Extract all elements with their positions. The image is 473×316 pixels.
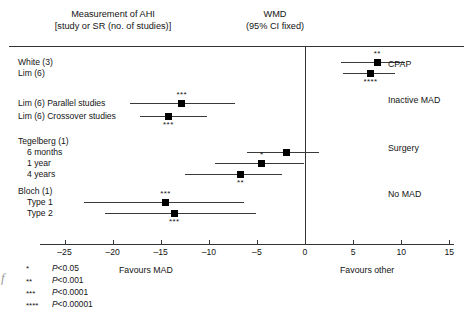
group-label: Surgery xyxy=(388,144,419,153)
legend-stars: *** xyxy=(26,289,35,298)
axis-tick-label: 10 xyxy=(386,248,416,257)
study-label: Lim (6) Crossover studies xyxy=(18,112,116,121)
header-left-column: Measurement of AHI [study or SR (no. of … xyxy=(18,9,208,32)
forest-plot: Measurement of AHI [study or SR (no. of … xyxy=(0,0,473,316)
significance-stars: *** xyxy=(159,218,189,226)
header-left-line2: [study or SR (no. of studies)] xyxy=(18,21,208,33)
study-label: Tegelberg (1) xyxy=(18,137,69,146)
axis-tick xyxy=(161,240,162,244)
group-label: Inactive MAD xyxy=(388,96,440,105)
significance-stars: ** xyxy=(226,179,256,187)
axis-tick xyxy=(209,240,210,244)
axis-tick xyxy=(353,240,354,244)
point-estimate-marker xyxy=(162,199,169,206)
axis-tick-label: –20 xyxy=(98,248,128,257)
point-estimate-marker xyxy=(367,70,374,77)
significance-stars: *** xyxy=(167,91,197,99)
page-edge-artifact: f xyxy=(1,271,5,284)
null-reference-line xyxy=(305,47,306,244)
point-estimate-marker xyxy=(258,160,265,167)
confidence-interval-line xyxy=(140,116,207,117)
axis-tick-label: –25 xyxy=(50,248,80,257)
point-estimate-marker xyxy=(165,113,172,120)
axis-tick-label: 5 xyxy=(338,248,368,257)
axis-tick-label: 15 xyxy=(434,248,464,257)
point-estimate-marker xyxy=(283,149,290,156)
favours-left-label: Favours MAD xyxy=(119,266,173,275)
legend-stars: ** xyxy=(26,277,32,286)
confidence-interval-line xyxy=(105,213,256,214)
study-label: Lim (6) xyxy=(18,69,45,78)
header-center-column: WMD (95% CI fixed) xyxy=(215,9,335,32)
study-label: Type 2 xyxy=(27,209,53,218)
point-estimate-marker xyxy=(237,171,244,178)
axis-tick-label: 0 xyxy=(290,248,320,257)
axis-tick xyxy=(305,240,306,244)
axis-tick-label: –10 xyxy=(194,248,224,257)
axis-baseline xyxy=(40,244,454,245)
favours-right-label: Favours other xyxy=(340,266,394,275)
significance-stars: ** xyxy=(362,50,392,58)
axis-tick xyxy=(65,240,66,244)
axis-tick xyxy=(401,240,402,244)
study-label: White (3) xyxy=(18,58,53,67)
legend-text: P<0.00001 xyxy=(52,300,93,309)
axis-tick xyxy=(449,240,450,244)
header-left-line1: Measurement of AHI xyxy=(18,9,208,21)
legend-text: P<0.001 xyxy=(52,276,83,285)
study-label: Type 1 xyxy=(27,198,53,207)
legend-stars: **** xyxy=(26,301,38,310)
axis-tick xyxy=(113,240,114,244)
confidence-interval-line xyxy=(185,174,282,175)
header-center-line1: WMD xyxy=(215,9,335,21)
point-estimate-marker xyxy=(178,100,185,107)
group-label: No MAD xyxy=(388,190,421,199)
legend-stars: * xyxy=(26,264,29,273)
significance-stars: *** xyxy=(151,190,181,198)
header-center-line2: (95% CI fixed) xyxy=(215,21,335,33)
significance-stars: *** xyxy=(153,121,183,129)
point-estimate-marker xyxy=(171,210,178,217)
study-label: 1 year xyxy=(27,159,51,168)
axis-tick-label: –5 xyxy=(242,248,272,257)
significance-stars: * xyxy=(247,151,277,159)
legend-text: P<0.0001 xyxy=(52,288,88,297)
legend-text: P<0.05 xyxy=(52,264,79,273)
study-label: Bloch (1) xyxy=(18,187,52,196)
study-label: 6 months xyxy=(27,148,62,157)
significance-stars: **** xyxy=(355,78,385,86)
group-label: CPAP xyxy=(388,60,411,69)
axis-tick xyxy=(257,240,258,244)
study-label: 4 years xyxy=(27,170,55,179)
header-divider-rule xyxy=(9,46,464,47)
study-label: Lim (6) Parallel studies xyxy=(18,99,105,108)
point-estimate-marker xyxy=(374,59,381,66)
axis-tick-label: –15 xyxy=(146,248,176,257)
